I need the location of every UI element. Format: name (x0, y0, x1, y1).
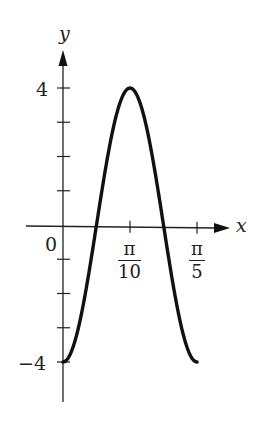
chart: y x 4 −4 0 π 10 π 5 (0, 0, 260, 422)
fraction-numerator: π (189, 240, 205, 261)
x-tick-label-pi-over-10: π 10 (118, 240, 141, 281)
y-axis-label: y (59, 24, 70, 43)
fraction-numerator: π (118, 240, 141, 261)
origin-label: 0 (45, 235, 57, 254)
y-tick-label-4: 4 (36, 80, 48, 99)
fraction-denominator: 5 (189, 261, 205, 281)
y-tick-label-neg4: −4 (18, 354, 46, 373)
x-axis-arrow-icon (214, 223, 230, 233)
fraction-denominator: 10 (118, 261, 141, 281)
x-axis (26, 226, 218, 228)
x-axis-label: x (236, 216, 247, 235)
y-axis-arrow-icon (59, 50, 68, 66)
x-tick-label-pi-over-5: π 5 (189, 240, 205, 281)
